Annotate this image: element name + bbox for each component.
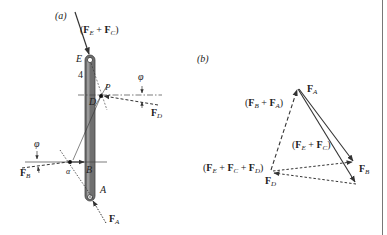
force-A-label: FA bbox=[109, 214, 119, 227]
point-B bbox=[68, 160, 72, 164]
resultant-label: (FE + FC) bbox=[80, 25, 119, 38]
angle-phi-top: φ bbox=[138, 72, 144, 82]
force-A-arrow bbox=[93, 201, 106, 223]
sum-FE-FC-label: (FE + FC) bbox=[292, 140, 331, 153]
force-B-label: FB bbox=[20, 168, 30, 181]
plus: + bbox=[306, 139, 317, 150]
plus: + bbox=[259, 97, 270, 108]
panel-a-diagram bbox=[22, 12, 162, 223]
force-D-label: FD bbox=[151, 108, 162, 121]
plus: + bbox=[217, 162, 228, 173]
vector-FE-plus-FC bbox=[298, 89, 355, 182]
paren: ) bbox=[115, 24, 118, 35]
point-A-label: A bbox=[100, 185, 106, 195]
vertex-FA-label: FA bbox=[307, 84, 317, 97]
paren: ) bbox=[280, 97, 283, 108]
angle-phi-bottom: φ bbox=[34, 139, 40, 149]
vertex-FB-label: FB bbox=[359, 164, 369, 177]
point-D-label: D bbox=[89, 97, 96, 107]
panel-a-label: (a) bbox=[55, 11, 67, 21]
subscript: B bbox=[26, 172, 30, 180]
panel-b-label: (b) bbox=[197, 54, 209, 64]
panel-b-force-polygon bbox=[271, 89, 356, 184]
subscript: A bbox=[313, 88, 317, 96]
vector-FD-to-FB bbox=[273, 162, 352, 171]
paren: ) bbox=[260, 162, 263, 173]
figure-canvas bbox=[0, 0, 387, 235]
vertex-FD-label: FD bbox=[265, 176, 276, 189]
plus: + bbox=[94, 24, 105, 35]
point-B-label: B bbox=[86, 165, 92, 175]
pin-E bbox=[87, 57, 92, 62]
paren: ) bbox=[327, 139, 330, 150]
rod bbox=[85, 55, 95, 201]
sum-FB-FA-label: (FB + FA) bbox=[245, 98, 283, 111]
right-border bbox=[382, 0, 383, 235]
subscript: D bbox=[271, 180, 276, 188]
subscript: D bbox=[157, 112, 162, 120]
point-E-label: E bbox=[76, 54, 82, 64]
vector-FE-FC-FD bbox=[274, 173, 356, 184]
subscript: B bbox=[365, 168, 369, 176]
point-D bbox=[99, 94, 103, 98]
slope-number: 4 bbox=[78, 70, 83, 80]
point-P-label: P bbox=[105, 82, 111, 92]
alpha-label: α bbox=[66, 167, 70, 177]
subscript: A bbox=[115, 218, 119, 226]
force-D-arrow bbox=[104, 96, 158, 105]
plus: + bbox=[238, 162, 249, 173]
sum-FE-FC-FD-label: (FE + FC + FD) bbox=[203, 163, 263, 176]
